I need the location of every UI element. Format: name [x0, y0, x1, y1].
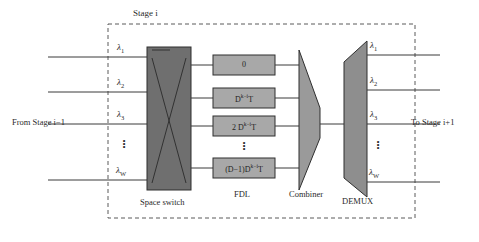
demux-block: [344, 41, 367, 197]
output-wavelength-3-index: 3: [374, 114, 377, 121]
stage-block-diagram: Stage i From Stage i−1 To Stage i+1 λ1 λ…: [0, 0, 479, 242]
stage-title: Stage i: [133, 9, 158, 18]
input-wavelength-3-index: 3: [121, 114, 124, 121]
fdl-label-4-text: (D−1)D: [225, 165, 250, 174]
output-wavelength-2-index: 2: [374, 80, 377, 87]
input-wavelength-1-index: 1: [121, 47, 124, 54]
fdl-label-1: 0: [213, 61, 275, 69]
input-wavelength-w-index: W: [120, 170, 126, 177]
demux-caption: DEMUX: [342, 197, 373, 206]
fdl-label-3: 2 Dk−iT: [213, 122, 275, 132]
output-wavelength-ellipsis: •••: [373, 141, 383, 150]
output-wavelength-w-index: W: [373, 172, 379, 179]
output-wavelength-1: λ1: [370, 41, 377, 52]
fdl-label-3-suffix: T: [251, 123, 256, 132]
output-wavelength-w: λW: [369, 168, 379, 179]
fdl-label-2: Dk−iT: [213, 94, 275, 104]
fdl-label-3-text: 2 D: [232, 123, 244, 132]
input-wavelength-3: λ3: [117, 110, 124, 121]
input-wavelength-1: λ1: [117, 43, 124, 54]
output-dest-label: To Stage i+1: [411, 118, 454, 127]
fdl-label-4-exponent: k−i: [251, 163, 258, 169]
input-source-label: From Stage i−1: [12, 118, 65, 127]
input-wavelength-w: λW: [116, 166, 126, 177]
input-wavelength-ellipsis: •••: [119, 140, 129, 149]
input-wavelength-2: λ2: [117, 78, 124, 89]
input-wavelength-2-index: 2: [121, 82, 124, 89]
space-switch-block: [147, 47, 191, 190]
fdl-caption: FDL: [234, 190, 250, 199]
fdl-label-2-suffix: T: [248, 95, 253, 104]
fdl-label-4-suffix: T: [258, 165, 263, 174]
combiner-caption: Combiner: [289, 190, 323, 199]
output-wavelength-1-index: 1: [374, 45, 377, 52]
fdl-label-4: (D−1)Dk−iT: [211, 164, 277, 174]
fdl-label-1-text: 0: [242, 60, 246, 69]
diagram-canvas: [0, 0, 479, 242]
combiner-block: [299, 50, 320, 190]
space-switch-caption: Space switch: [140, 198, 185, 207]
output-wavelength-2: λ2: [370, 76, 377, 87]
output-wavelength-3: λ3: [370, 110, 377, 121]
fdl-column-ellipsis: •••: [239, 142, 249, 151]
